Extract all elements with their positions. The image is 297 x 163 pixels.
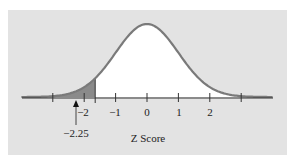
annotation-label: −2.25 bbox=[63, 127, 89, 139]
tick-label-neg2: −2 bbox=[77, 106, 89, 118]
x-axis-label: Z Score bbox=[131, 132, 166, 144]
tick-label-0: 0 bbox=[144, 106, 150, 118]
area-under-curve bbox=[21, 24, 272, 97]
tick-label-1: 1 bbox=[176, 106, 182, 118]
tick-label-neg1: −1 bbox=[109, 106, 121, 118]
tick-label-2: 2 bbox=[207, 106, 213, 118]
normal-curve-chart: −2 −1 0 1 2 −2.25 Z Score bbox=[0, 0, 297, 163]
arrow-up-icon bbox=[73, 100, 79, 107]
